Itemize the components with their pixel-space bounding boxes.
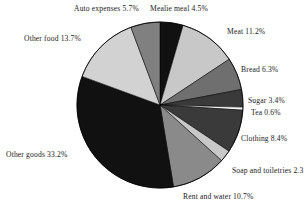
pie-chart: Mealie meal 4.5% Meat 11.2% Bread 6.3% S… [0,0,308,206]
pie-chart-page: Mealie meal 4.5% Meat 11.2% Bread 6.3% S… [0,0,308,206]
slice-label-tea: Tea 0.6% [251,108,281,117]
slice-label-sugar: Sugar 3.4% [248,96,285,105]
slice-label-rent-and-water: Rent and water 10.7% [183,192,253,201]
slice-label-bread: Bread 6.3% [241,65,278,74]
slice-label-auto-expenses: Auto expenses 5.7% [74,4,139,13]
pie-slice-group [77,22,243,188]
slice-label-other-food: Other food 13.7% [24,34,81,43]
slice-label-other-goods: Other goods 33.2% [6,150,67,159]
slice-label-mealie-meal: Mealie meal 4.5% [150,4,208,13]
slice-label-meat: Meat 11.2% [227,27,265,36]
slice-label-clothing: Clothing 8.4% [241,134,287,143]
slice-label-soap-and-toiletries: Soap and toiletries 2.3 [232,166,303,175]
